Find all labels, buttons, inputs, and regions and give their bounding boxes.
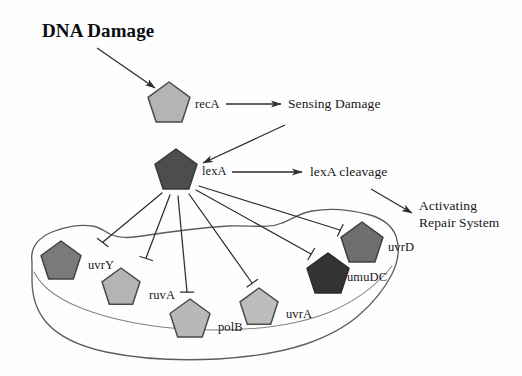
activation-edges — [97, 48, 412, 213]
edge-lexA-inhibits-uvrY — [98, 193, 163, 247]
node-ruvA[interactable] — [102, 268, 140, 304]
edge-cleavage-to-activating — [371, 189, 412, 213]
node-lexA[interactable] — [155, 149, 197, 189]
node-label-uvrY: uvrY — [88, 258, 114, 273]
node-label-uvrD: uvrD — [388, 240, 414, 255]
diagram-canvas — [0, 0, 522, 376]
edge-sensing-to-lexA — [203, 125, 285, 163]
node-uvrY[interactable] — [41, 241, 81, 279]
page-title: DNA Damage — [42, 20, 154, 42]
sos-response-diagram: DNA Damage recA lexA Sensing Damage lexA… — [0, 0, 522, 376]
node-label-lexA: lexA — [202, 164, 227, 179]
edge-lexA-inhibits-uvrA — [189, 194, 258, 287]
node-label-polB: polB — [218, 320, 243, 335]
node-label-ruvA: ruvA — [149, 288, 175, 303]
process-label-lexa-cleavage: lexA cleavage — [310, 164, 387, 180]
node-uvrD[interactable] — [341, 222, 383, 262]
node-uvrA[interactable] — [240, 288, 278, 324]
activating-line-2: Repair System — [419, 215, 499, 230]
edge-lexA-inhibits-umuDC — [196, 190, 315, 260]
edge-lexA-inhibits-polB — [178, 196, 194, 292]
process-label-activating-repair-system: Activating Repair System — [419, 197, 522, 231]
node-label-umuDC: umuDC — [347, 270, 387, 285]
node-umuDC[interactable] — [307, 253, 349, 293]
activating-line-1: Activating — [419, 198, 477, 213]
node-polB[interactable] — [170, 299, 210, 337]
process-label-sensing-damage: Sensing Damage — [288, 96, 381, 112]
inhibition-edges — [98, 186, 344, 292]
edge-lexA-inhibits-ruvA — [140, 195, 170, 261]
edge-lexA-inhibits-uvrD — [199, 186, 343, 236]
edge-damage-to-recA — [97, 48, 155, 88]
node-label-recA: recA — [195, 97, 220, 112]
node-label-uvrA: uvrA — [286, 307, 312, 322]
